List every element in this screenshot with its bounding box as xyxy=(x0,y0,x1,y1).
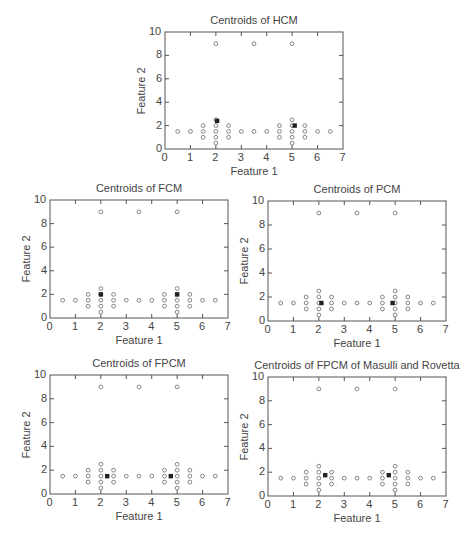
centroid-marker xyxy=(323,473,327,477)
axes-frame xyxy=(268,377,446,496)
y-tick-label: 10 xyxy=(252,370,264,382)
data-point xyxy=(317,464,321,468)
data-point xyxy=(317,482,321,486)
data-point xyxy=(279,476,283,480)
data-point xyxy=(393,464,397,468)
data-point xyxy=(317,476,321,480)
centroid-marker xyxy=(387,473,391,477)
data-point xyxy=(406,476,410,480)
y-tick-label: 4 xyxy=(259,441,265,453)
y-tick-label: 6 xyxy=(259,418,265,430)
data-point xyxy=(381,476,385,480)
y-tick-label: 2 xyxy=(259,465,265,477)
x-tick-label: 6 xyxy=(417,498,423,510)
data-point xyxy=(368,476,372,480)
x-tick-label: 1 xyxy=(290,498,296,510)
data-point xyxy=(393,488,397,492)
data-point xyxy=(304,470,308,474)
data-point xyxy=(304,482,308,486)
data-point xyxy=(393,387,397,391)
data-point xyxy=(317,488,321,492)
data-point xyxy=(393,482,397,486)
data-point xyxy=(317,387,321,391)
data-point xyxy=(381,470,385,474)
data-point xyxy=(330,476,334,480)
data-point xyxy=(292,476,296,480)
x-tick-label: 2 xyxy=(315,498,321,510)
data-point xyxy=(406,470,410,474)
data-point xyxy=(330,482,334,486)
x-tick-label: 0 xyxy=(265,498,271,510)
y-tick-label: 8 xyxy=(259,394,265,406)
x-tick-label: 4 xyxy=(366,498,372,510)
data-point xyxy=(406,482,410,486)
y-axis-label: Feature 2 xyxy=(238,413,250,460)
data-point xyxy=(393,470,397,474)
data-point xyxy=(419,476,423,480)
data-point xyxy=(317,470,321,474)
data-point xyxy=(355,476,359,480)
data-point xyxy=(393,476,397,480)
y-tick-label: 0 xyxy=(259,489,265,501)
plot-area xyxy=(0,0,472,538)
data-point xyxy=(355,387,359,391)
data-point xyxy=(304,476,308,480)
x-axis-label: Feature 1 xyxy=(333,512,380,524)
data-point xyxy=(381,482,385,486)
x-tick-label: 5 xyxy=(392,498,398,510)
data-point xyxy=(342,476,346,480)
x-tick-label: 7 xyxy=(443,498,449,510)
x-tick-label: 3 xyxy=(341,498,347,510)
data-point xyxy=(431,476,435,480)
data-point xyxy=(330,470,334,474)
